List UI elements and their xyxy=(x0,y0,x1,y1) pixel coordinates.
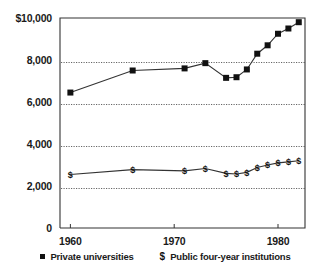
chart-legend: Private universities $ Public four-year … xyxy=(0,248,331,264)
y-axis-tick-label: 0 xyxy=(0,222,52,234)
svg-text:$: $ xyxy=(182,166,187,176)
legend-label-public: Public four-year institutions xyxy=(170,251,290,262)
dollar-marker-icon: $ xyxy=(160,251,166,262)
svg-text:$: $ xyxy=(265,160,270,170)
legend-item-private: Private universities xyxy=(40,251,133,262)
square-marker-icon xyxy=(40,254,45,259)
svg-text:$: $ xyxy=(224,169,229,179)
x-axis-tick-label: 1960 xyxy=(56,235,84,247)
svg-text:$: $ xyxy=(130,165,135,175)
svg-text:$: $ xyxy=(286,157,291,167)
legend-label-private: Private universities xyxy=(50,251,133,262)
y-axis-tick-label: 6,000 xyxy=(0,96,52,108)
y-axis-tick-label: $10,000 xyxy=(0,12,52,24)
y-axis-tick-label: 2,000 xyxy=(0,180,52,192)
chart-container: $$$$$$$$$$$$ 02,0004,0006,0008,000$10,00… xyxy=(0,0,331,271)
legend-item-public: $ Public four-year institutions xyxy=(160,251,291,262)
svg-text:$: $ xyxy=(234,169,239,179)
x-axis-tick-label: 1980 xyxy=(264,235,292,247)
x-axis-tick-label: 1970 xyxy=(160,235,188,247)
y-axis-tick-label: 8,000 xyxy=(0,54,52,66)
y-axis-tick-label: 4,000 xyxy=(0,138,52,150)
svg-text:$: $ xyxy=(296,156,301,166)
svg-text:$: $ xyxy=(276,158,281,168)
svg-text:$: $ xyxy=(203,164,208,174)
svg-text:$: $ xyxy=(244,168,249,178)
svg-text:$: $ xyxy=(68,170,73,180)
svg-text:$: $ xyxy=(255,163,260,173)
